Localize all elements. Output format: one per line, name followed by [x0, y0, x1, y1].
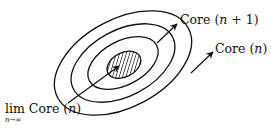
label-rest: ) — [76, 101, 81, 116]
hatched-core-ellipse — [102, 46, 145, 84]
sub-infinity: ∞ — [15, 116, 21, 124]
lim-operator: lim — [5, 101, 25, 116]
label-text: Core — [215, 41, 249, 56]
label-core-n: Core (n) — [215, 43, 267, 56]
label-text: Core — [180, 12, 214, 27]
label-core-n-plus-1: Core (n + 1) — [180, 14, 259, 27]
core-n-arrow — [191, 52, 213, 73]
lim-subscript: n→∞ — [5, 117, 81, 124]
label-rest: ) — [262, 41, 267, 56]
label-limit-core-n: lim Core (n) n→∞ — [5, 103, 81, 124]
label-rest: + 1) — [227, 12, 258, 27]
label-text: Core — [25, 101, 63, 116]
limit-arrow — [68, 66, 119, 103]
